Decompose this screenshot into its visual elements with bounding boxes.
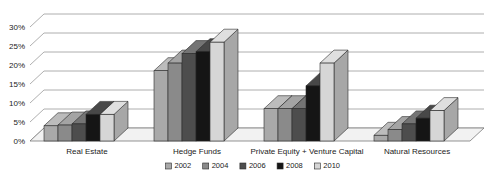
y-axis-labels-group: 0%5%10%15%20%25%30% bbox=[9, 23, 25, 146]
bar-front-face bbox=[264, 109, 278, 141]
gridline-30% bbox=[30, 14, 484, 27]
chart-canvas: 0%5%10%15%20%25%30% Real EstateHedge Fun… bbox=[0, 0, 498, 177]
bar-front-face bbox=[44, 126, 58, 141]
legend-label: 2006 bbox=[249, 161, 266, 170]
category-label: Natural Resources bbox=[384, 147, 450, 156]
category-label: Private Equity + Venture Capital bbox=[250, 147, 363, 156]
bar-front-face bbox=[402, 124, 416, 141]
bar-front-face bbox=[430, 111, 444, 141]
bar-front-face bbox=[374, 135, 388, 141]
y-axis-tick-label: 0% bbox=[13, 137, 25, 146]
gridline-15% bbox=[30, 71, 484, 84]
bar-side-face bbox=[334, 50, 348, 141]
bar bbox=[210, 29, 238, 141]
bar-chart: 0%5%10%15%20%25%30% Real EstateHedge Fun… bbox=[0, 0, 498, 177]
legend-label: 2004 bbox=[212, 161, 229, 170]
bar-side-face bbox=[224, 29, 238, 141]
bar-front-face bbox=[306, 86, 320, 141]
y-axis-tick-label: 30% bbox=[9, 23, 25, 32]
legend-label: 2010 bbox=[323, 161, 340, 170]
bar bbox=[320, 50, 348, 141]
legend-swatch bbox=[240, 163, 246, 169]
bars-group bbox=[44, 29, 458, 141]
legend-swatch bbox=[277, 163, 283, 169]
category-labels-group: Real EstateHedge FundsPrivate Equity + V… bbox=[66, 147, 450, 156]
legend-item: 2004 bbox=[203, 161, 229, 170]
legend-item: 2008 bbox=[277, 161, 303, 170]
bar-front-face bbox=[292, 109, 306, 141]
bar-front-face bbox=[196, 52, 210, 141]
legend-item: 2010 bbox=[314, 161, 340, 170]
legend-swatch bbox=[314, 163, 320, 169]
bar-front-face bbox=[72, 124, 86, 141]
category-label: Hedge Funds bbox=[173, 147, 221, 156]
category-label: Real Estate bbox=[66, 147, 108, 156]
legend-swatch bbox=[166, 163, 172, 169]
legend-swatch bbox=[203, 163, 209, 169]
gridline-25% bbox=[30, 33, 484, 46]
bar-front-face bbox=[100, 114, 114, 141]
bar-front-face bbox=[182, 54, 196, 141]
legend: 20022004200620082010 bbox=[166, 161, 340, 170]
bar-front-face bbox=[86, 114, 100, 141]
y-axis-tick-label: 25% bbox=[9, 42, 25, 51]
y-axis-tick-label: 10% bbox=[9, 99, 25, 108]
legend-item: 2002 bbox=[166, 161, 192, 170]
y-axis-tick-label: 15% bbox=[9, 80, 25, 89]
legend-label: 2002 bbox=[175, 161, 192, 170]
gridline-10% bbox=[30, 90, 484, 103]
legend-label: 2008 bbox=[286, 161, 303, 170]
bar-front-face bbox=[210, 42, 224, 141]
bar-front-face bbox=[416, 118, 430, 141]
bar-front-face bbox=[168, 63, 182, 141]
legend-item: 2006 bbox=[240, 161, 266, 170]
gridline-20% bbox=[30, 52, 484, 65]
bar-front-face bbox=[58, 125, 72, 141]
bar-front-face bbox=[320, 63, 334, 141]
bar-front-face bbox=[154, 71, 168, 141]
y-axis-tick-label: 5% bbox=[13, 118, 25, 127]
y-axis-tick-label: 20% bbox=[9, 61, 25, 70]
bar-front-face bbox=[388, 130, 402, 141]
bar-front-face bbox=[278, 109, 292, 141]
